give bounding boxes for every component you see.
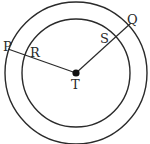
label-r: R bbox=[30, 46, 40, 59]
label-s: S bbox=[100, 32, 109, 45]
segment-tp bbox=[8, 49, 76, 73]
label-q: Q bbox=[127, 13, 138, 26]
diagram-canvas: P R Q S T bbox=[0, 0, 150, 144]
center-point-dot bbox=[72, 69, 79, 76]
label-p: P bbox=[3, 40, 12, 53]
label-t: T bbox=[71, 78, 80, 91]
